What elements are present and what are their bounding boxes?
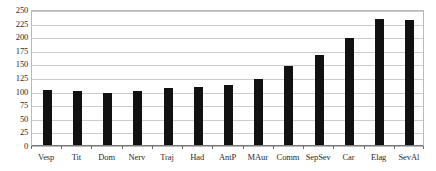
x-tick-label: Traj <box>160 152 173 162</box>
x-tick <box>364 146 365 149</box>
y-tick-label: 250 <box>16 6 28 15</box>
x-tick-label: Car <box>342 152 354 162</box>
x-tick <box>212 146 213 149</box>
bar <box>315 55 324 145</box>
bar <box>254 79 263 145</box>
x-tick <box>243 146 244 149</box>
y-tick-label: 0 <box>24 142 28 151</box>
y-axis: 0255075100125150175200225250 <box>0 0 30 171</box>
bar <box>224 85 233 145</box>
bars-group <box>32 11 423 146</box>
x-tick <box>31 146 32 149</box>
bar <box>164 88 173 145</box>
plot-area <box>31 10 424 147</box>
bar <box>43 90 52 145</box>
x-tick <box>152 146 153 149</box>
y-tick-label: 25 <box>20 128 28 137</box>
x-tick-label: Elag <box>371 152 386 162</box>
x-tick <box>303 146 304 149</box>
x-tick <box>423 146 424 149</box>
x-tick-label: Nerv <box>129 152 146 162</box>
x-tick <box>61 146 62 149</box>
bar-chart: 0255075100125150175200225250 VespTitDomN… <box>0 0 436 171</box>
bar <box>194 87 203 145</box>
y-tick-label: 50 <box>20 115 28 124</box>
x-tick-label: SevAl <box>398 152 419 162</box>
bar <box>133 91 142 145</box>
x-tick-label: SepSev <box>306 152 331 162</box>
y-tick-label: 125 <box>16 74 28 83</box>
x-tick <box>122 146 123 149</box>
y-tick-label: 75 <box>20 101 28 110</box>
x-tick-label: MAur <box>248 152 268 162</box>
x-tick-label: Comm <box>277 152 300 162</box>
x-axis: VespTitDomNervTrajHadAntPMAurCommSepSevC… <box>31 150 424 170</box>
x-tick <box>182 146 183 149</box>
x-tick-label: Dom <box>98 152 115 162</box>
bar <box>73 91 82 145</box>
y-tick-label: 225 <box>16 20 28 29</box>
y-tick-label: 150 <box>16 60 28 69</box>
bar <box>103 93 112 145</box>
bar <box>284 66 293 145</box>
x-tick-label: Vesp <box>38 152 54 162</box>
x-tick <box>394 146 395 149</box>
x-tick <box>273 146 274 149</box>
x-tick <box>333 146 334 149</box>
bar <box>405 20 414 145</box>
x-tick-label: AntP <box>219 152 236 162</box>
y-tick-label: 200 <box>16 33 28 42</box>
bar <box>345 38 354 145</box>
bar <box>375 19 384 145</box>
x-tick-label: Tit <box>72 152 81 162</box>
x-tick-label: Had <box>190 152 204 162</box>
y-tick-label: 100 <box>16 88 28 97</box>
x-tick <box>91 146 92 149</box>
y-tick-label: 175 <box>16 47 28 56</box>
